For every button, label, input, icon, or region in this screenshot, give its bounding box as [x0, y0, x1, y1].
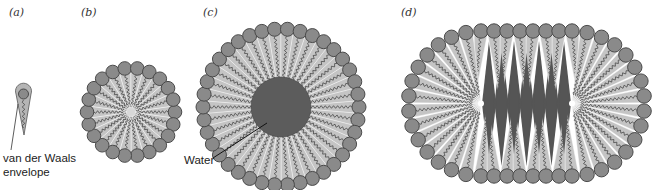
van-der-waals-label: van der Waals envelope: [3, 151, 76, 179]
micelle-diagram: [0, 0, 657, 190]
water-core-micelle: [196, 22, 366, 190]
spherical-micelle: [80, 62, 182, 163]
lipid-molecule: [11, 83, 31, 150]
cylindrical-micelle: [402, 24, 652, 183]
water-label: Water: [184, 153, 214, 167]
van-der-waals-line2: envelope: [3, 165, 76, 179]
van-der-waals-line1: van der Waals: [3, 151, 76, 165]
